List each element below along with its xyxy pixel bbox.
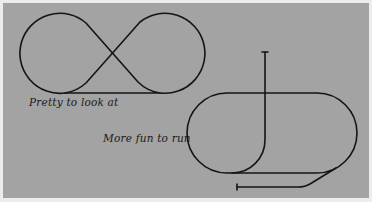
oval-caption: More fun to run — [103, 132, 191, 144]
lower-siding-track — [237, 168, 336, 190]
oval-track — [187, 93, 357, 173]
branch-spur-track — [232, 52, 268, 173]
figure-eight-caption: Pretty to look at — [29, 96, 118, 108]
figure-eight-track — [20, 13, 205, 93]
